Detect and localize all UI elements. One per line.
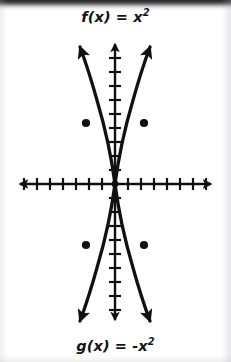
point-f-left bbox=[82, 119, 90, 127]
function-label-g: g(x) = -x2 bbox=[0, 338, 231, 354]
parabola-g-right-branch bbox=[115, 184, 150, 321]
parabola-f-left-branch bbox=[80, 47, 115, 184]
coordinate-plane bbox=[0, 0, 231, 362]
point-origin bbox=[112, 181, 119, 188]
graph-figure: f(x) = x2 bbox=[0, 0, 231, 362]
parabola-f-right-branch bbox=[115, 47, 150, 184]
point-g-left bbox=[82, 241, 90, 249]
point-g-right bbox=[140, 241, 148, 249]
function-label-g-text: g(x) = -x bbox=[76, 338, 148, 354]
parabola-g-left-branch bbox=[80, 184, 115, 321]
point-f-right bbox=[140, 119, 148, 127]
function-label-g-exponent: 2 bbox=[148, 336, 155, 347]
